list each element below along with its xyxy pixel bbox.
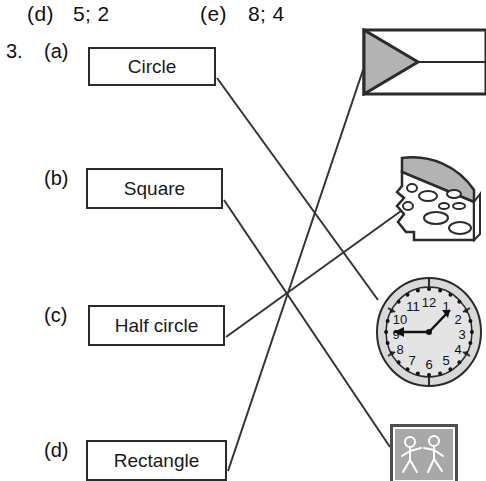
shape-box-square-label: Square	[124, 178, 185, 200]
clock-numeral-8: 8	[396, 342, 403, 357]
connector-rectangle-to-flag	[228, 70, 363, 471]
shape-box-half-circle-label: Half circle	[115, 315, 198, 337]
picture-clock[interactable]: 12 1 2 3 4 5 6 7 8 9 10 11	[374, 276, 484, 388]
cheese-hole	[407, 184, 417, 192]
cheese-hole	[424, 212, 448, 224]
header-answer-e-letter: (e)	[200, 1, 227, 27]
header-answer-e-value: 8; 4	[248, 1, 285, 27]
shape-box-circle-label: Circle	[128, 56, 177, 78]
picture-flag[interactable]	[360, 28, 486, 96]
clock-numeral-10: 10	[393, 312, 407, 327]
cheese-hole	[449, 222, 471, 234]
connector-square-to-sign	[224, 200, 390, 447]
picture-school-crossing-sign[interactable]	[388, 422, 462, 481]
clock-numeral-11: 11	[406, 299, 420, 314]
clock-numeral-7: 7	[408, 353, 415, 368]
header-answer-d-letter: (d)	[27, 1, 54, 27]
cheese-side-face	[474, 194, 480, 240]
clock-numeral-12: 12	[422, 295, 436, 310]
item-letter-d: (d)	[44, 437, 68, 463]
shape-box-rectangle-label: Rectangle	[114, 450, 200, 472]
cheese-hole	[419, 191, 437, 201]
shape-box-half-circle[interactable]: Half circle	[88, 305, 225, 346]
shape-box-rectangle[interactable]: Rectangle	[86, 440, 227, 481]
connector-circle-to-clock	[217, 78, 378, 300]
clock-numeral-5: 5	[442, 353, 449, 368]
cheese-hole	[453, 203, 465, 209]
clock-center-pin	[426, 329, 432, 335]
cheese-hole	[403, 202, 413, 210]
clock-numeral-4: 4	[454, 342, 461, 357]
item-letter-c: (c)	[44, 302, 67, 328]
header-answer-d-value: 5; 2	[73, 1, 110, 27]
picture-cheese-wedge[interactable]	[384, 146, 486, 246]
item-letter-a: (a)	[44, 38, 68, 64]
question-number: 3.	[6, 38, 23, 64]
shape-box-circle[interactable]: Circle	[88, 47, 216, 86]
clock-numeral-2: 2	[454, 312, 461, 327]
worksheet-page: (d) 5; 2 (e) 8; 4 3. (a) (b) (c) (d) Cir…	[0, 0, 486, 481]
shape-box-square[interactable]: Square	[86, 168, 223, 209]
clock-numeral-3: 3	[458, 327, 465, 342]
cheese-hole	[439, 203, 449, 209]
item-letter-b: (b)	[44, 165, 68, 191]
clock-numeral-6: 6	[425, 357, 432, 372]
cheese-hole	[447, 190, 461, 198]
header-answer-row: (d) 5; 2 (e) 8; 4	[0, 0, 486, 30]
